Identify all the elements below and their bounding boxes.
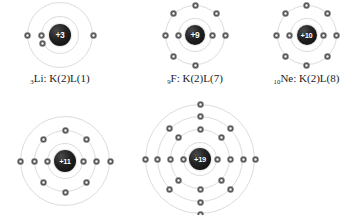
electron bbox=[227, 156, 234, 163]
electron bbox=[209, 32, 216, 39]
bohr-model-lithium: +3 bbox=[0, 2, 120, 68]
electron bbox=[192, 2, 199, 9]
electron bbox=[175, 177, 182, 184]
electron bbox=[320, 32, 327, 39]
electron bbox=[252, 156, 259, 163]
electron bbox=[197, 101, 204, 108]
electron bbox=[31, 158, 38, 165]
symbol-neon: Ne bbox=[280, 72, 293, 84]
atom-diagram-neon: +10 10Ne: K(2)L(8) bbox=[252, 2, 361, 68]
electron bbox=[142, 156, 149, 163]
electron bbox=[24, 32, 31, 39]
electron bbox=[166, 186, 173, 193]
electron bbox=[170, 53, 177, 60]
electron bbox=[107, 158, 114, 165]
electron bbox=[333, 32, 340, 39]
caption-lithium: 3Li: K(2)L(1) bbox=[0, 72, 120, 84]
electron bbox=[303, 2, 310, 9]
electron bbox=[38, 32, 45, 39]
bohr-model-fluorine: +9 bbox=[139, 2, 251, 68]
atom-diagram-potassium: +19 bbox=[130, 103, 270, 215]
electron bbox=[197, 113, 204, 120]
bohr-model-neon: +10 bbox=[252, 2, 361, 68]
nucleus-potassium: +19 bbox=[189, 148, 211, 170]
electron bbox=[44, 158, 51, 165]
nucleus-neon: +10 bbox=[297, 25, 317, 45]
electron bbox=[17, 158, 24, 165]
electron bbox=[40, 136, 47, 143]
electron bbox=[62, 127, 69, 134]
atom-diagram-fluorine: +9 9F: K(2)L(7) bbox=[139, 2, 251, 68]
electron bbox=[90, 32, 97, 39]
config-neon: : K(2)L(8) bbox=[293, 72, 339, 84]
electron bbox=[197, 211, 204, 216]
caption-neon: 10Ne: K(2)L(8) bbox=[252, 72, 361, 84]
electron bbox=[213, 10, 220, 17]
bohr-model-potassium: +19 bbox=[130, 103, 270, 215]
electron bbox=[282, 53, 289, 60]
atomic-number-lithium: 3 bbox=[30, 78, 33, 85]
bohr-model-sodium: +11 bbox=[0, 107, 130, 215]
nucleus-fluorine: +9 bbox=[185, 25, 205, 45]
electron bbox=[83, 136, 90, 143]
electron bbox=[154, 156, 161, 163]
atom-diagram-lithium: +3 3Li: K(2)L(1) bbox=[0, 2, 120, 68]
electron bbox=[227, 186, 234, 193]
nucleus-sodium: +11 bbox=[54, 150, 76, 172]
electron bbox=[162, 32, 169, 39]
electron bbox=[192, 62, 199, 69]
electron bbox=[39, 40, 46, 47]
electron bbox=[214, 156, 221, 163]
atom-diagram-sodium: +11 bbox=[0, 107, 130, 215]
electron bbox=[197, 186, 204, 193]
electron bbox=[197, 126, 204, 133]
electron bbox=[303, 62, 310, 69]
electron bbox=[286, 32, 293, 39]
config-fluorine: : K(2)L(7) bbox=[177, 72, 223, 84]
electron bbox=[222, 32, 229, 39]
electron bbox=[180, 156, 187, 163]
electron bbox=[62, 189, 69, 196]
symbol-lithium: Li bbox=[34, 72, 44, 84]
electron bbox=[93, 158, 100, 165]
electron bbox=[324, 53, 331, 60]
electron bbox=[273, 32, 280, 39]
electron bbox=[227, 125, 234, 132]
electron bbox=[218, 177, 225, 184]
nucleus-lithium: +3 bbox=[49, 24, 71, 46]
electron bbox=[167, 156, 174, 163]
atomic-number-neon: 10 bbox=[274, 78, 281, 85]
electron bbox=[40, 179, 47, 186]
config-lithium: : K(2)L(1) bbox=[44, 72, 90, 84]
atomic-number-fluorine: 9 bbox=[167, 78, 170, 85]
electron bbox=[240, 156, 247, 163]
caption-fluorine: 9F: K(2)L(7) bbox=[139, 72, 251, 84]
electron bbox=[175, 32, 182, 39]
electron bbox=[80, 158, 87, 165]
electron bbox=[218, 134, 225, 141]
electron bbox=[197, 199, 204, 206]
